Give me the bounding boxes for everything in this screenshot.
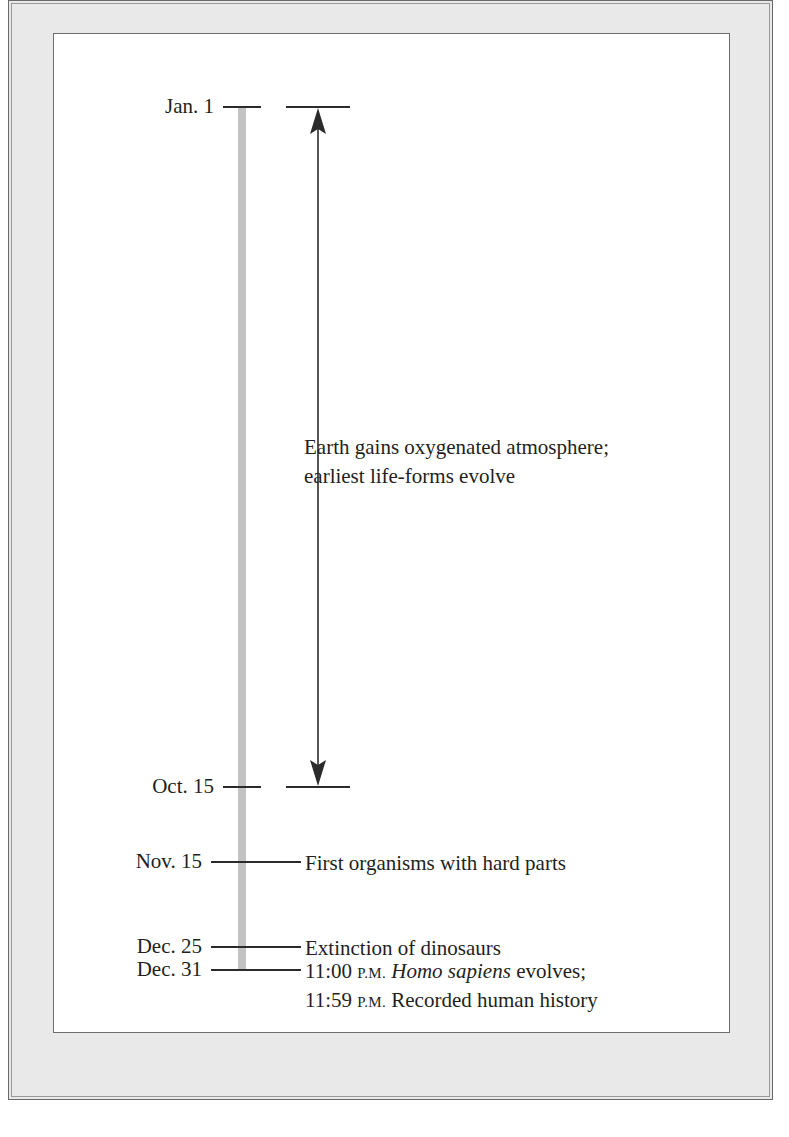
page-sheet: Jan. 1 Oct. 15 Nov. 15 First organisms w… (53, 33, 730, 1033)
time-1100: 11:00 (305, 959, 352, 983)
timeline-bar (238, 107, 246, 970)
tick-dec-31 (211, 969, 301, 971)
tick-oct-15 (223, 786, 261, 788)
page-frame: Jan. 1 Oct. 15 Nov. 15 First organisms w… (8, 0, 773, 1100)
tick-jan-1 (223, 106, 261, 108)
span-annotation-text: Earth gains oxygenated atmosphere; earli… (304, 433, 724, 491)
date-label-jan-1: Jan. 1 (14, 96, 214, 117)
event-text-recorded-history: Recorded human history (391, 988, 597, 1012)
span-annotation-line-2: earliest life-forms evolve (304, 462, 724, 491)
tick-nov-15 (211, 861, 301, 863)
cosmic-calendar-figure: Jan. 1 Oct. 15 Nov. 15 First organisms w… (54, 34, 731, 1034)
time-1159: 11:59 (305, 988, 352, 1012)
date-label-dec-31: Dec. 31 (2, 959, 202, 980)
date-label-dec-25: Dec. 25 (2, 936, 202, 957)
date-label-nov-15: Nov. 15 (2, 851, 202, 872)
tick-dec-25 (211, 946, 301, 948)
meridiem-pm-1: P.M. (357, 965, 386, 981)
event-label-nov-15: First organisms with hard parts (305, 850, 566, 876)
date-label-oct-15: Oct. 15 (14, 776, 214, 797)
span-annotation-line-1: Earth gains oxygenated atmosphere; (304, 433, 724, 462)
event-line-1100pm: 11:00 P.M. Homo sapiens evolves; (305, 958, 705, 987)
event-text-evolves: evolves; (516, 959, 586, 983)
event-block-dec-31: 11:00 P.M. Homo sapiens evolves; 11:59 P… (305, 958, 705, 1016)
species-name-homo-sapiens: Homo sapiens (391, 959, 511, 983)
event-line-1159pm: 11:59 P.M. Recorded human history (305, 987, 705, 1016)
meridiem-pm-2: P.M. (357, 994, 386, 1010)
span-arrow-double-headed (54, 34, 731, 1034)
